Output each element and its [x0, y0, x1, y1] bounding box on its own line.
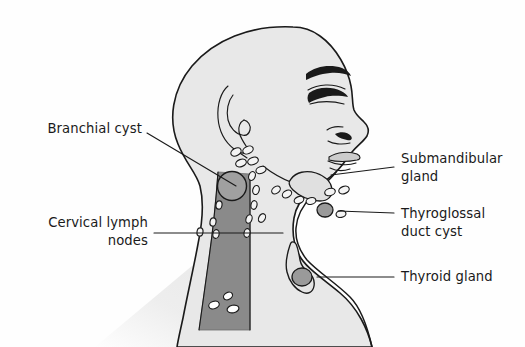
label-thyroglossal-duct-cyst-line1: Thyroglossal	[400, 206, 485, 221]
neck-anatomy-diagram: Branchial cyst Cervical lymph nodes Subm…	[0, 0, 525, 347]
lymph-node	[209, 217, 216, 226]
label-submandibular-gland-line2: gland	[401, 169, 438, 184]
lymph-node	[215, 200, 222, 209]
lymph-node	[338, 185, 351, 195]
anatomy-figure: Branchial cyst Cervical lymph nodes Subm…	[0, 0, 525, 347]
label-thyroglossal-duct-cyst-line2: duct cyst	[401, 224, 462, 239]
lymph-node	[196, 227, 203, 236]
thyroglossal-duct-cyst	[317, 203, 333, 217]
label-cervical-lymph-nodes-line2: nodes	[108, 233, 148, 248]
thyroid-nodule	[292, 268, 312, 286]
label-submandibular-gland-line1: Submandibular	[401, 151, 503, 166]
branchial-cyst	[218, 172, 247, 201]
label-cervical-lymph-nodes-line1: Cervical lymph	[48, 215, 148, 230]
label-thyroid-gland: Thyroid gland	[400, 269, 493, 284]
label-branchial-cyst: Branchial cyst	[47, 121, 142, 136]
